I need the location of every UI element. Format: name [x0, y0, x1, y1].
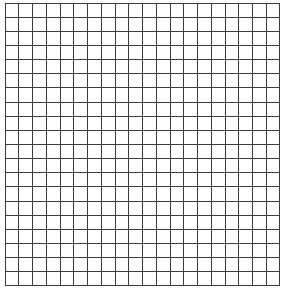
- grid-figure: [5, 3, 280, 286]
- grid-lines-svg: [5, 3, 280, 286]
- screenshot-canvas: [0, 0, 284, 298]
